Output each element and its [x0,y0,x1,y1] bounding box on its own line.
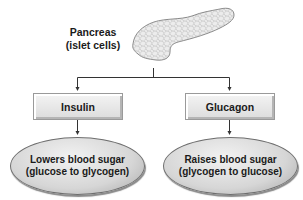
insulin-box: Insulin [33,93,123,120]
insulin-effect-line1: Lowers blood sugar [30,154,125,167]
glucagon-label: Glucagon [206,101,254,113]
glucagon-effect-line1: Raises blood sugar [184,154,276,167]
arrow-down-icon [228,131,232,135]
insulin-effect-line2: (glucose to glycogen) [26,166,129,179]
glucagon-effect-ellipse: Raises blood sugar (glycogen to glucose) [163,137,298,195]
glucagon-box: Glucagon [185,93,275,120]
arrow-down-icon [76,87,80,91]
arrow-down-icon [228,87,232,91]
insulin-label: Insulin [61,101,95,113]
insulin-effect-ellipse: Lowers blood sugar (glucose to glycogen) [10,137,145,195]
arrow-down-icon [76,131,80,135]
glucagon-effect-line2: (glycogen to glucose) [179,166,282,179]
